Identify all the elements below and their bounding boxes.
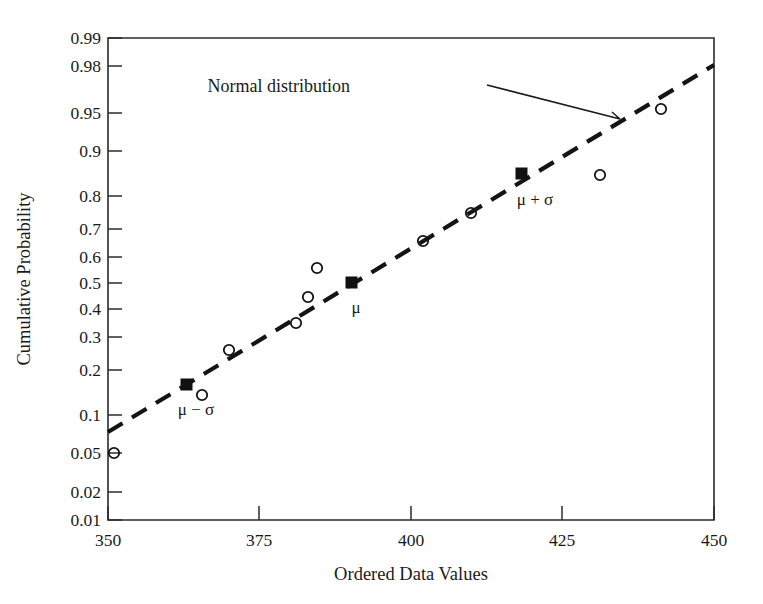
y-tick-label-0.95: 0.95 (70, 103, 101, 123)
plot-border (108, 38, 714, 520)
normal-probability-plot-figure: 0.99 0.98 0.95 0.9 0.8 0.7 0.6 0.5 0.4 0… (0, 0, 763, 604)
x-axis-ticks (108, 506, 714, 520)
data-point (656, 104, 666, 114)
data-point (595, 170, 605, 180)
y-tick-label-0.3: 0.3 (79, 327, 101, 347)
y-tick-label-0.02: 0.02 (70, 482, 101, 502)
x-axis-tick-labels: 350 375 400 425 450 (95, 530, 728, 550)
plot-canvas: 0.99 0.98 0.95 0.9 0.8 0.7 0.6 0.5 0.4 0… (0, 0, 763, 604)
label-mu-minus-sigma: μ − σ (178, 400, 214, 419)
data-point (312, 263, 322, 273)
normal-distribution-leader-line (487, 85, 620, 119)
x-tick-label-400: 400 (398, 530, 425, 550)
y-tick-label-0.7: 0.7 (79, 219, 101, 239)
x-tick-label-425: 425 (549, 530, 576, 550)
x-tick-label-450: 450 (701, 530, 728, 550)
data-point (224, 345, 234, 355)
label-mu: μ (351, 298, 360, 317)
data-point (303, 292, 313, 302)
y-tick-label-0.98: 0.98 (70, 56, 101, 76)
y-axis-tick-labels: 0.99 0.98 0.95 0.9 0.8 0.7 0.6 0.5 0.4 0… (70, 28, 101, 530)
x-tick-label-375: 375 (246, 530, 273, 550)
x-axis-title: Ordered Data Values (334, 564, 488, 584)
axes-frame (108, 38, 714, 520)
y-axis-title: Cumulative Probability (14, 192, 34, 366)
y-tick-label-0.9: 0.9 (79, 141, 101, 161)
data-point (197, 390, 207, 400)
y-tick-label-0.1: 0.1 (79, 405, 101, 425)
normal-distribution-fit-line (108, 65, 714, 432)
y-tick-label-0.05: 0.05 (70, 443, 101, 463)
normal-distribution-annotation: Normal distribution (208, 76, 351, 96)
y-tick-label-0.8: 0.8 (79, 186, 101, 206)
y-tick-label-0.2: 0.2 (79, 360, 101, 380)
y-tick-label-0.5: 0.5 (79, 273, 101, 293)
y-tick-label-0.6: 0.6 (79, 247, 101, 267)
y-tick-label-0.4: 0.4 (79, 299, 101, 319)
y-tick-label-0.01: 0.01 (70, 510, 101, 530)
reference-point-mu-minus-sigma (181, 379, 192, 390)
data-point (291, 318, 301, 328)
x-tick-label-350: 350 (95, 530, 122, 550)
reference-point-mu-plus-sigma (516, 168, 527, 179)
reference-point-mu (346, 277, 357, 288)
y-tick-label-0.99: 0.99 (70, 28, 101, 48)
label-mu-plus-sigma: μ + σ (517, 190, 553, 209)
